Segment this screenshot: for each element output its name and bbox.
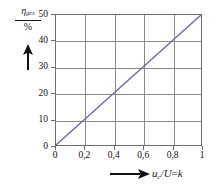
x-axis-rest: /U (161, 167, 172, 179)
x-tick-label: 0,2 (69, 150, 99, 160)
y-tick-label: 50 (8, 9, 48, 19)
x-tick-label: 0,8 (158, 150, 188, 160)
x-tick-label: 1 (187, 150, 217, 160)
y-tick-label: 20 (8, 88, 48, 98)
x-axis-variable: k (178, 167, 183, 179)
chart-figure: ηges % 50 40 30 20 10 0 0 0,2 (0, 0, 220, 189)
y-tick-label: 10 (8, 114, 48, 124)
right-arrow-icon (110, 168, 150, 180)
x-tick-label: 0,6 (128, 150, 158, 160)
y-tick-label: 40 (8, 35, 48, 45)
plot-area (55, 14, 202, 146)
x-axis-label: uc/U=k (152, 166, 183, 184)
x-tick-label: 0,4 (99, 150, 129, 160)
y-tick-label: 30 (8, 61, 48, 71)
x-tick-label: 0 (40, 150, 70, 160)
data-series-line (56, 15, 201, 145)
y-axis-label-denominator: % (9, 21, 47, 33)
